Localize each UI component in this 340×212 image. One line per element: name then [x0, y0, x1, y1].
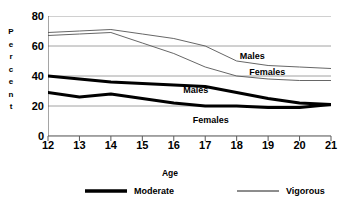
y-axis-tick-label: 20: [14, 100, 44, 112]
y-axis-tick-label: 80: [14, 10, 44, 22]
series-inline-label: Females: [249, 67, 285, 77]
legend-line-swatch: [85, 187, 127, 195]
chart-figure: P e r c e n t 020406080 1213141516171819…: [0, 0, 340, 212]
plot-area: MalesFemalesMalesFemales: [48, 16, 331, 136]
series-inline-label: Males: [240, 51, 265, 61]
chart-legend: ModerateVigorous: [0, 186, 340, 204]
legend-item: Vigorous: [237, 186, 325, 196]
x-axis-title: Age: [0, 168, 340, 178]
y-axis-ticks: 020406080: [12, 0, 44, 212]
legend-line-swatch: [237, 187, 279, 195]
x-axis-ticks: 12131415161718192021: [0, 139, 340, 155]
chart-svg: [48, 16, 331, 136]
legend-label: Vigorous: [286, 186, 325, 196]
legend-label: Moderate: [134, 186, 174, 196]
y-axis-tick-label: 60: [14, 40, 44, 52]
y-axis-tick-label: 40: [14, 70, 44, 82]
legend-item: Moderate: [85, 186, 174, 196]
series-inline-label: Males: [183, 85, 208, 95]
series-inline-label: Females: [193, 115, 229, 125]
